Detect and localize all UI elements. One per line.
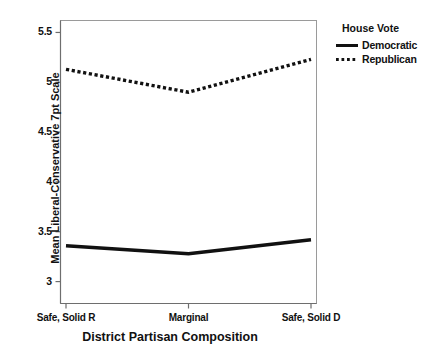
y-tick-label: 3: [8, 275, 52, 287]
x-tick-label: Marginal: [134, 312, 244, 323]
x-tick-label: Safe, Solid R: [11, 312, 121, 323]
legend-item-democratic[interactable]: Democratic: [336, 39, 427, 51]
legend-title: House Vote: [342, 22, 427, 34]
line-chart: 33.544.555.5 Safe, Solid RMarginalSafe, …: [0, 0, 427, 358]
x-axis-ticks: [66, 304, 311, 309]
y-tick-label: 4: [8, 175, 52, 187]
legend-item-label: Democratic: [362, 39, 417, 51]
y-tick-label: 5.5: [8, 25, 52, 37]
legend-swatch-dotted-icon: [336, 54, 358, 64]
x-axis-title: District Partisan Composition: [0, 330, 340, 344]
plot-area-border: [61, 21, 317, 304]
chart-legend: House Vote DemocraticRepublican: [336, 22, 427, 67]
x-tick-label: Safe, Solid D: [256, 312, 366, 323]
legend-swatch-solid-icon: [336, 40, 358, 50]
legend-item-republican[interactable]: Republican: [336, 53, 427, 65]
y-tick-label: 4.5: [8, 125, 52, 137]
y-axis-title: Mean Liberal-Conservative 7pt Scale: [49, 33, 61, 303]
y-tick-label: 3.5: [8, 225, 52, 237]
legend-item-label: Republican: [362, 53, 417, 65]
legend-entries: DemocraticRepublican: [336, 39, 427, 65]
y-tick-label: 5: [8, 75, 52, 87]
